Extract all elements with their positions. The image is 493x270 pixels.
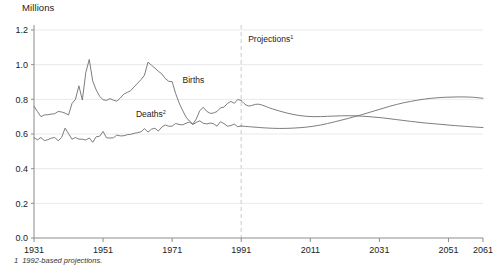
axes-group	[31, 25, 483, 242]
x-tick-label: 2031	[369, 245, 389, 255]
series-line-births-projection	[241, 101, 483, 128]
x-tick-label: 2051	[438, 245, 458, 255]
projections-label: Projections1	[248, 34, 293, 44]
y-tick-label: 1.0	[15, 60, 28, 70]
x-tick-label: 1971	[162, 245, 182, 255]
x-tick-label: 1991	[231, 245, 251, 255]
y-tick-label: 0.8	[15, 95, 28, 105]
series-line-deaths-historical	[34, 121, 241, 142]
y-tick-label: 0.6	[15, 129, 28, 139]
footnote: 11992-based projections.	[14, 256, 102, 265]
y-tick-label: 0.0	[15, 233, 28, 243]
y-tick-labels: 0.00.20.40.60.81.01.2	[15, 25, 28, 243]
gridlines-group	[34, 30, 483, 203]
x-tick-label: 1931	[24, 245, 44, 255]
footnote-number: 1	[14, 256, 18, 265]
x-tick-label: 1951	[93, 245, 113, 255]
series-annotations: BirthsDeaths2Projections1	[136, 34, 293, 118]
x-tick-label: 2011	[301, 245, 320, 255]
x-tick-labels: 19311951197119912011203120512061	[24, 245, 493, 255]
series-label-deaths: Deaths2	[136, 109, 166, 119]
y-tick-label: 0.2	[15, 199, 28, 209]
x-tick-label: 2061	[473, 245, 493, 255]
y-tick-label: 1.2	[15, 25, 28, 35]
series-line-deaths-projection	[241, 97, 483, 129]
data-series-group	[34, 59, 483, 142]
series-label-births: Births	[183, 75, 205, 85]
footnote-text: 1992-based projections.	[22, 256, 102, 265]
y-tick-label: 0.4	[15, 164, 28, 174]
line-chart-canvas: 0.00.20.40.60.81.01.2 193119511971199120…	[0, 0, 493, 270]
